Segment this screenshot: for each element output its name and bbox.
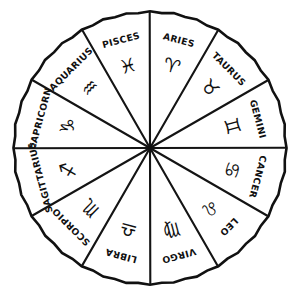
wheel-hub bbox=[148, 146, 153, 151]
zodiac-wheel-svg: ARIES♈TAURUS♉GEMINI♊CANCER♋LEO♌VIRGO♍LIB… bbox=[0, 0, 296, 301]
wheel-center-point bbox=[148, 146, 153, 151]
zodiac-wheel-figure: ARIES♈TAURUS♉GEMINI♊CANCER♋LEO♌VIRGO♍LIB… bbox=[0, 0, 296, 301]
